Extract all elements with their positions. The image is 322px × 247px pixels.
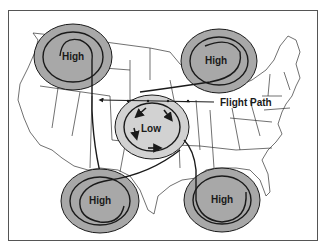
low-pressure-center: Low: [115, 95, 189, 159]
high-ne-label: High: [205, 55, 227, 66]
high-se-label: High: [211, 194, 233, 205]
flight-path-label: Flight Path: [220, 97, 272, 108]
low-label: Low: [141, 123, 161, 134]
high-sw-label: High: [89, 195, 111, 206]
high-nw-label: High: [62, 51, 84, 62]
weather-map-diagram: High High Low High High Flight: [0, 0, 322, 247]
